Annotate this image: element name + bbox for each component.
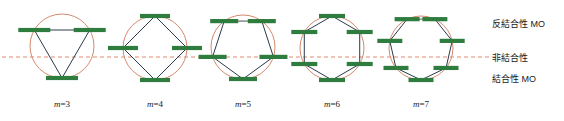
diagram-caption-m7: m=7: [413, 99, 429, 109]
diagram-m4: [108, 14, 202, 82]
polygon-edge-m7-2: [390, 19, 407, 41]
energy-level-bar-m5-2: [210, 19, 238, 23]
legend-nonbonding: 非結合性: [492, 51, 528, 64]
legend-bonding-mo: 結合性 MO: [492, 72, 536, 85]
polygon-edge-m6-5: [332, 64, 360, 80]
frost-circle-figure: m=3m=4m=5m=6m=7反結合性 MO非結合性結合性 MO: [0, 0, 564, 121]
polygon-edge-m6-2: [304, 16, 332, 32]
energy-level-bar-m6-1: [291, 62, 317, 66]
polygon-edge-m6-0: [304, 64, 332, 80]
polygon-edge-m7-4: [435, 19, 452, 41]
energy-level-bar-m3-2: [74, 28, 106, 32]
energy-level-bar-m6-2: [291, 30, 317, 34]
energy-level-bar-m4-1: [108, 46, 138, 50]
energy-level-bar-m7-4: [422, 17, 447, 21]
energy-level-bar-m4-3: [172, 46, 202, 50]
energy-level-bar-m5-0: [229, 77, 257, 81]
energy-level-bar-m7-3: [395, 17, 420, 21]
polygon-edge-m3-2: [62, 30, 90, 78]
diagram-m3: [18, 14, 105, 80]
polygon-edge-m6-3: [332, 16, 360, 32]
energy-level-bar-m5-3: [248, 19, 276, 23]
caption-value-m6: 6: [336, 99, 341, 109]
diagram-caption-m4: m=4: [147, 99, 163, 109]
circumscribing-circle-m5: [211, 15, 275, 79]
energy-level-bar-m7-2: [377, 39, 402, 43]
energy-level-bar-m5-1: [199, 55, 227, 59]
energy-level-bar-m5-4: [259, 55, 287, 59]
circumscribing-circle-m3: [30, 14, 94, 78]
energy-level-bar-m7-5: [440, 39, 465, 43]
caption-value-m5: 5: [247, 99, 252, 109]
energy-level-bar-m6-3: [319, 14, 345, 18]
caption-value-m7: 7: [425, 99, 430, 109]
diagram-caption-m6: m=6: [324, 99, 340, 109]
diagram-canvas: [0, 0, 564, 121]
diagram-m7: [377, 16, 464, 82]
energy-level-bar-m6-5: [347, 62, 373, 66]
energy-level-bar-m6-4: [347, 30, 373, 34]
polygon-edge-m3-0: [34, 30, 62, 78]
caption-value-m3: 3: [66, 99, 71, 109]
circumscribing-circle-m7: [389, 16, 453, 80]
energy-level-bar-m7-1: [383, 66, 408, 70]
legend-antibonding-mo: 反結合性 MO: [492, 17, 545, 30]
energy-level-bar-m3-1: [18, 28, 50, 32]
energy-level-bar-m6-0: [319, 78, 345, 82]
diagram-caption-m5: m=5: [235, 99, 251, 109]
diagram-m6: [291, 14, 372, 82]
energy-level-bar-m4-2: [140, 14, 170, 18]
energy-level-bar-m7-6: [434, 66, 459, 70]
energy-level-bar-m7-0: [409, 78, 434, 82]
energy-level-bar-m4-0: [140, 78, 170, 82]
diagram-m5: [199, 15, 288, 81]
caption-value-m4: 4: [159, 99, 164, 109]
diagram-caption-m3: m=3: [54, 99, 70, 109]
energy-level-bar-m3-0: [46, 76, 78, 80]
circumscribing-circle-m6: [300, 16, 364, 80]
